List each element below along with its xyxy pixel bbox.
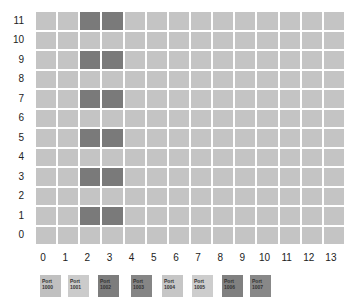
heatmap-cell: [146, 148, 168, 168]
x-tick-label: 5: [143, 252, 165, 264]
heatmap-cell: [57, 50, 79, 70]
heatmap-cell: [101, 31, 123, 51]
heatmap-cell: [57, 109, 79, 129]
heatmap-cell: [212, 206, 234, 226]
heatmap-cell: [279, 89, 301, 109]
heatmap-cell: [101, 226, 123, 246]
heatmap-cell: [190, 148, 212, 168]
heatmap-cell: [57, 148, 79, 168]
legend-value: 1000: [42, 284, 59, 290]
heatmap-cell: [35, 187, 57, 207]
heatmap-cell: [146, 50, 168, 70]
legend-item: Port1005: [192, 275, 213, 297]
heatmap-cell: [301, 128, 323, 148]
heatmap-cell: [168, 11, 190, 31]
heatmap-cell: [234, 70, 256, 90]
heatmap-cell: [279, 70, 301, 90]
heatmap-cell: [256, 206, 278, 226]
x-tick-label: 4: [121, 252, 143, 264]
heatmap-cell: [79, 31, 101, 51]
heatmap-cell: [101, 109, 123, 129]
heatmap-cell: [35, 206, 57, 226]
heatmap-cell: [301, 70, 323, 90]
heatmap-cell: [212, 148, 234, 168]
x-tick-label: 0: [32, 252, 54, 264]
heatmap-cell: [124, 148, 146, 168]
legend-item: Port1003: [131, 275, 152, 297]
heatmap-cell: [256, 89, 278, 109]
heatmap-cell: [101, 128, 123, 148]
heatmap-cell: [323, 206, 345, 226]
heatmap-cell: [190, 70, 212, 90]
y-tick-label: 0: [0, 229, 24, 241]
heatmap-cell: [323, 89, 345, 109]
heatmap-cell: [323, 11, 345, 31]
heatmap-cell: [168, 187, 190, 207]
heatmap-cell: [301, 206, 323, 226]
heatmap-cell: [279, 128, 301, 148]
y-tick-label: 10: [0, 34, 24, 46]
heatmap-cell: [57, 89, 79, 109]
heatmap-cell: [124, 167, 146, 187]
y-tick-label: 9: [0, 54, 24, 66]
heatmap-cell: [301, 109, 323, 129]
heatmap-cell: [168, 89, 190, 109]
heatmap-cell: [256, 50, 278, 70]
heatmap-cell: [190, 167, 212, 187]
heatmap-cell: [234, 31, 256, 51]
heatmap-cell: [279, 206, 301, 226]
y-tick-label: 8: [0, 73, 24, 85]
heatmap-cell: [124, 187, 146, 207]
heatmap-cell: [146, 128, 168, 148]
heatmap-cell: [190, 109, 212, 129]
heatmap-cell: [234, 206, 256, 226]
heatmap-cell: [234, 89, 256, 109]
heatmap-cell: [301, 31, 323, 51]
heatmap-cell: [256, 109, 278, 129]
heatmap-cell: [146, 167, 168, 187]
heatmap-cell: [101, 11, 123, 31]
heatmap-cell: [279, 11, 301, 31]
x-tick-label: 10: [254, 252, 276, 264]
heatmap-cell: [256, 11, 278, 31]
heatmap-cell: [279, 167, 301, 187]
heatmap-cell: [323, 226, 345, 246]
heatmap-cell: [79, 226, 101, 246]
heatmap-cell: [279, 31, 301, 51]
heatmap-cell: [168, 50, 190, 70]
y-tick-label: 11: [0, 15, 24, 27]
heatmap-cell: [79, 109, 101, 129]
heatmap-cell: [79, 70, 101, 90]
x-tick-label: 8: [209, 252, 231, 264]
x-tick-label: 1: [54, 252, 76, 264]
heatmap-cell: [279, 187, 301, 207]
heatmap-cell: [256, 187, 278, 207]
heatmap-cell: [146, 31, 168, 51]
heatmap-cell: [35, 167, 57, 187]
heatmap-cell: [256, 128, 278, 148]
heatmap-cell: [323, 167, 345, 187]
heatmap-cell: [101, 187, 123, 207]
heatmap-cell: [35, 11, 57, 31]
heatmap-cell: [190, 206, 212, 226]
y-tick-label: 4: [0, 151, 24, 163]
heatmap-cell: [279, 109, 301, 129]
heatmap-cell: [124, 11, 146, 31]
legend-value: 1004: [164, 284, 181, 290]
heatmap-cell: [124, 50, 146, 70]
legend-value: 1001: [70, 284, 87, 290]
legend-value: 1007: [252, 284, 269, 290]
heatmap-cell: [212, 226, 234, 246]
y-tick-label: 3: [0, 171, 24, 183]
y-tick-label: 6: [0, 112, 24, 124]
heatmap-cell: [79, 167, 101, 187]
x-tick-label: 2: [76, 252, 98, 264]
heatmap-cell: [190, 128, 212, 148]
heatmap-cell: [168, 70, 190, 90]
heatmap-cell: [279, 50, 301, 70]
heatmap-cell: [57, 128, 79, 148]
heatmap-cell: [101, 206, 123, 226]
heatmap-cell: [190, 89, 212, 109]
heatmap-cell: [234, 148, 256, 168]
heatmap-cell: [323, 109, 345, 129]
